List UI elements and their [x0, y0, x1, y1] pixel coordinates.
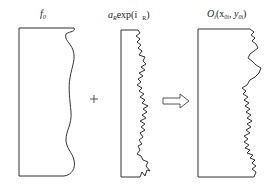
hollow-right-arrow-icon [163, 94, 189, 108]
object-profile-shape [198, 29, 261, 177]
plus-icon [90, 95, 98, 103]
random-phase-profile-shape [121, 30, 150, 177]
diagram-canvas [0, 0, 276, 190]
f0-smooth-profile-shape [19, 28, 75, 176]
